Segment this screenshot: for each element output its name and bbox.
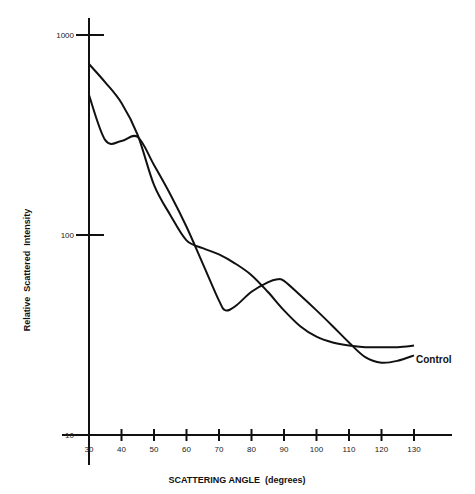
x-axis-title: SCATTERING ANGLE (degrees) — [168, 475, 305, 485]
series-line-sample — [89, 64, 414, 347]
x-tick-label: 70 — [215, 445, 224, 454]
x-ticks: 30405060708090100110120130 — [85, 429, 422, 454]
x-tick-label: 30 — [85, 445, 94, 454]
x-tick-label: 100 — [310, 445, 324, 454]
y-tick-label: 10 — [65, 431, 74, 440]
x-tick-label: 130 — [407, 445, 421, 454]
scattering-chart: 101001000 30405060708090100110120130 Con… — [0, 0, 475, 494]
series-lines — [89, 64, 414, 363]
y-ticks: 101001000 — [56, 31, 104, 440]
x-tick-label: 40 — [117, 445, 126, 454]
x-tick-label: 120 — [375, 445, 389, 454]
x-tick-label: 90 — [280, 445, 289, 454]
y-tick-label: 1000 — [56, 31, 74, 40]
y-axis-title: Relative Scattered Intensity — [22, 209, 32, 332]
x-tick-label: 60 — [182, 445, 191, 454]
y-tick-label: 100 — [61, 231, 75, 240]
control-series-label: Control — [416, 354, 452, 365]
x-tick-label: 110 — [343, 445, 356, 454]
x-tick-label: 50 — [150, 445, 159, 454]
x-tick-label: 80 — [247, 445, 256, 454]
axes: 101001000 30405060708090100110120130 — [56, 18, 452, 465]
